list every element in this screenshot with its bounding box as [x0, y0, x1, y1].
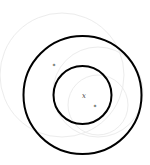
center-label: x	[82, 92, 86, 100]
star-marker-icon: *	[94, 103, 97, 110]
concentric-circles-diagram: x * *	[0, 0, 150, 165]
star-marker-icon: *	[53, 62, 56, 69]
faint-background-circles	[0, 13, 143, 137]
